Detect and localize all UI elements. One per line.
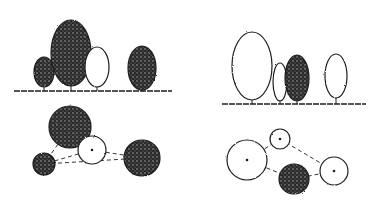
trunk-center-dot — [279, 138, 282, 141]
trunk-center-dot — [333, 170, 336, 173]
tree-plan-dark — [279, 164, 309, 194]
trunk-center-dot — [246, 159, 249, 162]
right-plan-view — [227, 129, 348, 194]
right-elevation-view — [222, 32, 366, 104]
trunk-center-dot — [91, 149, 94, 152]
left-plan-view — [33, 106, 160, 176]
tree-canopy-dark — [285, 55, 309, 101]
planting-diagram — [0, 0, 368, 214]
tree-canopy-light — [232, 32, 272, 100]
tree-plan-dark — [124, 140, 160, 176]
tree-canopy-dark — [51, 20, 91, 86]
tree-canopy-dark — [34, 57, 54, 87]
left-elevation-view — [14, 20, 172, 91]
tree-canopy-light — [325, 54, 347, 98]
tree-canopy-light — [85, 47, 109, 87]
tree-canopy-dark — [128, 46, 156, 90]
tree-plan-dark — [33, 153, 55, 175]
